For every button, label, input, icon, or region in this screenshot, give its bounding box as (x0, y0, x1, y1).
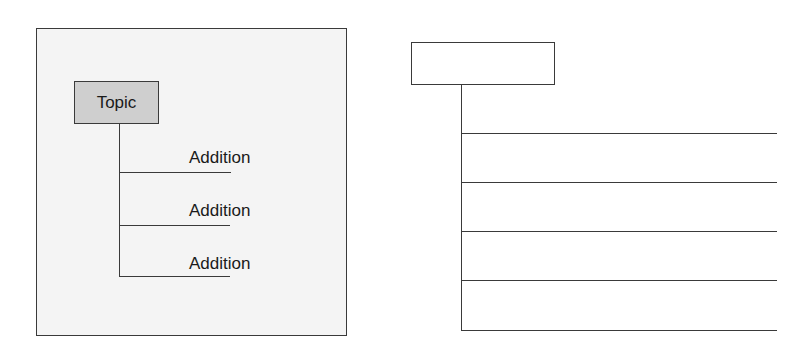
blank-trunk-line (461, 84, 462, 331)
addition-label-2: Addition (189, 202, 250, 219)
example-panel (36, 28, 347, 336)
example-trunk-line (119, 124, 120, 277)
addition-line-3 (119, 276, 230, 277)
topic-label: Topic (97, 93, 137, 113)
blank-line-5 (461, 330, 777, 331)
topic-box: Topic (74, 81, 159, 124)
addition-label-3: Addition (189, 255, 250, 272)
blank-line-4 (461, 280, 777, 281)
blank-line-2 (461, 182, 777, 183)
blank-line-1 (461, 133, 777, 134)
addition-line-1 (119, 172, 231, 173)
blank-topic-box (411, 42, 555, 85)
blank-line-3 (461, 231, 777, 232)
addition-label-1: Addition (189, 149, 250, 166)
addition-line-2 (119, 225, 230, 226)
